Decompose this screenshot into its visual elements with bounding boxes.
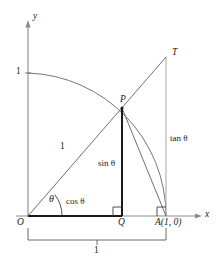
y-axis <box>25 20 30 216</box>
right-angle-mark-Q <box>113 207 122 216</box>
tan-label: tan θ <box>170 134 188 143</box>
point-label-T: T <box>172 48 177 58</box>
measure-brace <box>28 228 166 245</box>
chord-PA <box>122 108 166 216</box>
x-axis-label: x <box>205 210 209 220</box>
sin-label: sin θ <box>98 159 115 168</box>
hypotenuse-length-label: 1 <box>60 142 65 152</box>
point-label-Q: Q <box>118 218 125 228</box>
angle-label-theta: θ <box>49 194 54 204</box>
trigonometry-figure: y x O 1 P T Q A(1, 0) 1 sin θ cos θ tan … <box>0 0 220 267</box>
point-label-P: P <box>120 95 126 105</box>
point-label-A: A(1, 0) <box>155 218 181 228</box>
right-angle-mark-A <box>157 207 166 216</box>
point-marker-P <box>121 107 124 110</box>
brace-length-label: 1 <box>94 246 99 256</box>
angle-arc <box>55 195 62 216</box>
y-axis-label: y <box>33 12 37 22</box>
cos-label: cos θ <box>66 197 85 206</box>
origin-label: O <box>17 218 24 228</box>
y-unit-tick-label: 1 <box>16 67 21 77</box>
